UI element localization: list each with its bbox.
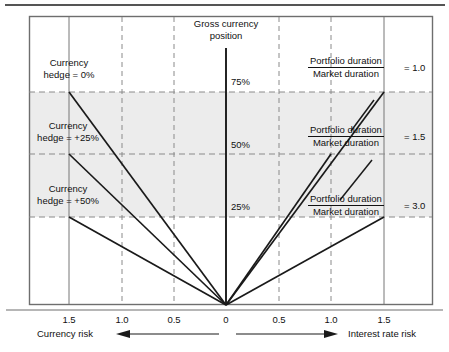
label-duration-value-3_0: = 3.0 [404, 200, 425, 211]
x-tick-right-0_5: 0.5 [264, 314, 294, 325]
hedge-50-line1: Currency [49, 183, 88, 194]
label-duration-ratio-1_0: Portfolio duration Market duration [308, 55, 384, 79]
arrow-interest-rate-risk-head [324, 330, 338, 338]
x-tick-right-1_5: 1.5 [369, 314, 399, 325]
hedge-25-line2: hedge = +25% [37, 132, 99, 143]
label-duration-ratio-3_0: Portfolio duration Market duration [308, 193, 384, 217]
x-tick-left-1_0: 1.0 [107, 314, 137, 325]
label-25-percent: 25% [231, 201, 250, 212]
x-tick-left-1_5: 1.5 [54, 314, 84, 325]
series-line-duration-3_0 [226, 217, 384, 305]
duration-3_0-numerator: Portfolio duration [308, 193, 384, 206]
hedge-0-line1: Currency [50, 57, 89, 68]
x-tick-left-0_5: 0.5 [159, 314, 189, 325]
duration-1_0-numerator: Portfolio duration [308, 55, 384, 68]
axis-label-currency-risk: Currency risk [37, 328, 93, 339]
center-title: Gross currency position [176, 18, 276, 41]
duration-3_0-denominator: Market duration [308, 206, 384, 218]
label-50-percent: 50% [231, 139, 250, 150]
label-75-percent: 75% [231, 76, 250, 87]
duration-1_0-denominator: Market duration [308, 68, 384, 80]
chart-canvas [0, 0, 449, 352]
hedge-50-line2: hedge = +50% [37, 195, 99, 206]
x-tick-right-1_0: 1.0 [316, 314, 346, 325]
hedge-0-line2: hedge = 0% [44, 69, 95, 80]
duration-1_5-denominator: Market duration [308, 137, 384, 149]
hedge-25-line1: Currency [49, 120, 88, 131]
center-title-line1: Gross currency [194, 18, 258, 29]
label-currency-hedge-0: Currency hedge = 0% [24, 57, 114, 80]
label-currency-hedge-50: Currency hedge = +50% [18, 183, 118, 206]
label-duration-value-1_0: = 1.0 [404, 62, 425, 73]
figure-container: Gross currency position 75% 50% 25% Curr… [0, 0, 449, 352]
label-currency-hedge-25: Currency hedge = +25% [18, 120, 118, 143]
label-duration-ratio-1_5: Portfolio duration Market duration [308, 124, 384, 148]
x-tick-zero: 0 [211, 314, 241, 325]
duration-1_5-numerator: Portfolio duration [308, 124, 384, 137]
center-title-line2: position [210, 30, 243, 41]
label-duration-value-1_5: = 1.5 [404, 131, 425, 142]
arrow-currency-risk-head [116, 330, 130, 338]
axis-label-interest-rate-risk: Interest rate risk [348, 328, 416, 339]
